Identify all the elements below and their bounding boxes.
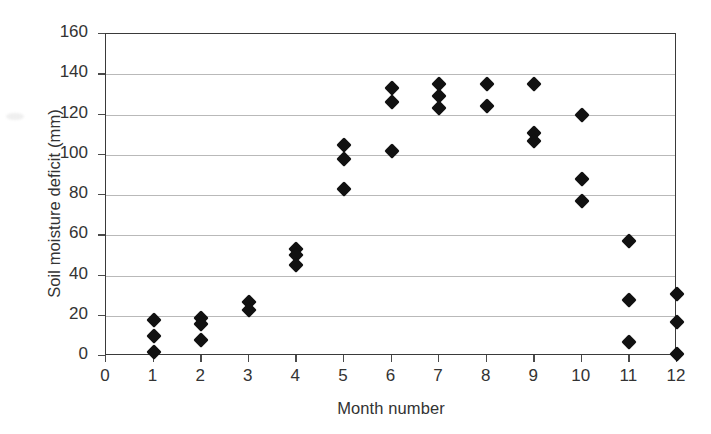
y-tick-mark xyxy=(98,154,105,155)
data-point xyxy=(384,95,400,111)
x-tick-label: 8 xyxy=(466,366,506,386)
y-tick-label: 120 xyxy=(18,103,88,123)
data-point xyxy=(146,312,162,328)
y-tick-label: 20 xyxy=(18,304,88,324)
x-tick-mark xyxy=(628,355,629,362)
x-tick-label: 3 xyxy=(228,366,268,386)
gridline xyxy=(106,195,675,196)
data-point xyxy=(622,334,638,350)
data-point xyxy=(622,292,638,308)
y-tick-label: 40 xyxy=(18,264,88,284)
gridline xyxy=(106,276,675,277)
data-point xyxy=(574,107,590,123)
x-tick-mark xyxy=(581,355,582,362)
data-point xyxy=(479,99,495,115)
x-tick-mark xyxy=(105,355,106,362)
data-point xyxy=(336,151,352,167)
y-tick-label: 100 xyxy=(18,143,88,163)
data-point xyxy=(336,137,352,153)
x-tick-mark xyxy=(391,355,392,362)
data-point xyxy=(146,328,162,344)
x-tick-label: 5 xyxy=(323,366,363,386)
data-point xyxy=(669,346,685,362)
data-point xyxy=(384,143,400,159)
scatter-chart-figure: Soil moisture deficit (mm) Month number … xyxy=(0,0,711,434)
y-tick-mark xyxy=(98,355,105,356)
x-tick-label: 0 xyxy=(85,366,125,386)
y-tick-mark xyxy=(98,33,105,34)
y-tick-mark xyxy=(98,114,105,115)
y-tick-mark xyxy=(98,73,105,74)
x-tick-mark xyxy=(248,355,249,362)
y-tick-label: 160 xyxy=(18,22,88,42)
data-point xyxy=(574,171,590,187)
gridline xyxy=(106,74,675,75)
x-tick-label: 1 xyxy=(133,366,173,386)
x-tick-label: 9 xyxy=(513,366,553,386)
y-tick-label: 80 xyxy=(18,183,88,203)
x-tick-label: 6 xyxy=(371,366,411,386)
y-tick-label: 0 xyxy=(18,344,88,364)
data-point xyxy=(146,344,162,360)
x-tick-mark xyxy=(295,355,296,362)
x-tick-mark xyxy=(200,355,201,362)
x-tick-mark xyxy=(533,355,534,362)
x-tick-mark xyxy=(486,355,487,362)
gridline xyxy=(106,316,675,317)
x-axis-title: Month number xyxy=(105,399,677,418)
x-tick-label: 4 xyxy=(275,366,315,386)
x-tick-label: 11 xyxy=(608,366,648,386)
y-tick-mark xyxy=(98,275,105,276)
x-tick-mark xyxy=(343,355,344,362)
y-tick-label: 140 xyxy=(18,62,88,82)
x-tick-mark xyxy=(438,355,439,362)
y-tick-mark xyxy=(98,194,105,195)
data-point xyxy=(526,77,542,93)
y-tick-label: 60 xyxy=(18,223,88,243)
x-tick-label: 12 xyxy=(656,366,696,386)
y-tick-mark xyxy=(98,234,105,235)
x-tick-label: 7 xyxy=(418,366,458,386)
x-tick-label: 2 xyxy=(180,366,220,386)
x-tick-label: 10 xyxy=(561,366,601,386)
data-point xyxy=(289,258,305,274)
gridline xyxy=(106,235,675,236)
data-point xyxy=(193,332,209,348)
data-point xyxy=(479,77,495,93)
y-tick-mark xyxy=(98,315,105,316)
data-point xyxy=(669,286,685,302)
plot-area xyxy=(105,33,676,355)
